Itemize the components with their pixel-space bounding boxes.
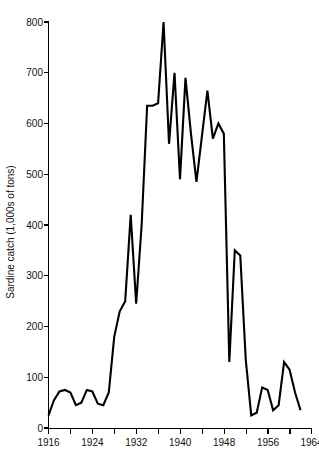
x-tick-label: 1924 [81,437,104,448]
y-tick-label: 100 [26,372,43,383]
y-tick-label: 400 [26,220,43,231]
y-tick-label: 0 [37,423,43,434]
chart-canvas: Sardine catch (1,000s of tons) 800 700 6… [0,0,319,458]
x-tick-label: 1964 [300,437,319,448]
sardine-catch-chart: Sardine catch (1,000s of tons) 800 700 6… [0,0,319,458]
y-tick-label: 300 [26,270,43,281]
x-axis-ticks [49,429,312,434]
y-tick-label: 600 [26,118,43,129]
x-axis-tick-labels: 1916 1924 1932 1940 1948 1956 1964 [37,437,319,448]
x-tick-label: 1940 [169,437,192,448]
x-tick-label: 1948 [213,437,236,448]
x-tick-label: 1932 [125,437,148,448]
sardine-catch-line [49,22,301,415]
y-axis-title: Sardine catch (1,000s of tons) [5,165,16,298]
y-tick-label: 500 [26,169,43,180]
x-tick-label: 1916 [37,437,60,448]
y-tick-label: 700 [26,67,43,78]
y-axis-tick-labels: 800 700 600 500 400 300 200 100 0 [26,17,43,434]
x-tick-label: 1956 [257,437,280,448]
y-tick-label: 200 [26,321,43,332]
y-axis-ticks [44,22,49,428]
y-tick-label: 800 [26,17,43,28]
